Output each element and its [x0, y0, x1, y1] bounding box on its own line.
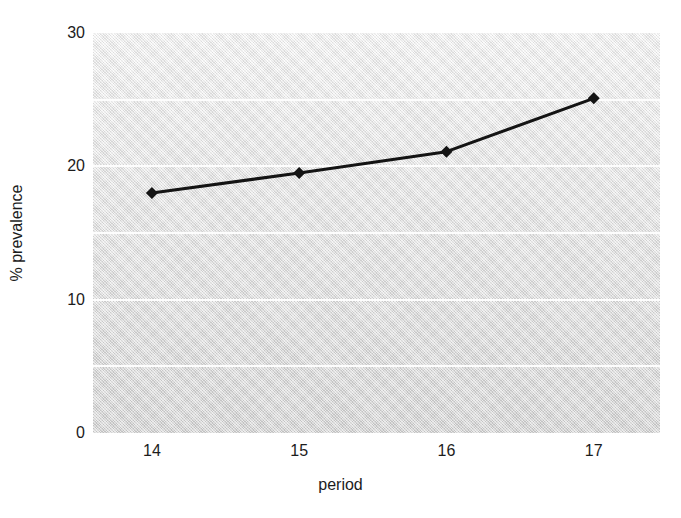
y-axis-tick-labels: 0102030: [30, 33, 85, 433]
x-axis-tick-labels: 14151617: [93, 441, 660, 465]
y-axis-tick-label: 30: [39, 25, 85, 41]
line-chart: % prevalence 0102030 14151617 period: [0, 0, 681, 518]
y-axis-tick-label: 20: [39, 158, 85, 174]
data-point-marker: [440, 146, 452, 158]
x-axis-tick-label: 14: [143, 441, 161, 460]
x-axis-tick-label: 15: [290, 441, 308, 460]
x-axis-tick-label: 17: [585, 441, 603, 460]
data-point-marker: [146, 187, 158, 199]
series-line: [152, 98, 594, 193]
y-axis-tick-label: 10: [39, 292, 85, 308]
plot-area: [93, 33, 660, 433]
data-series-layer: [93, 33, 660, 433]
data-point-marker: [588, 92, 600, 104]
x-axis-title: period: [0, 476, 681, 494]
data-point-marker: [293, 167, 305, 179]
x-axis-tick-label: 16: [438, 441, 456, 460]
y-axis-title-container: % prevalence: [0, 0, 34, 466]
y-axis-title: % prevalence: [8, 185, 26, 282]
y-axis-tick-label: 0: [39, 425, 85, 441]
